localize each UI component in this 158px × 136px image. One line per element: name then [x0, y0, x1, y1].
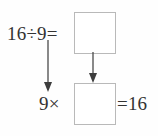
- arrow-quotient-to-factor-icon: [85, 52, 103, 85]
- math-relationship-diagram: 16÷9= 9× =16: [0, 0, 158, 136]
- answer-box-factor[interactable]: [74, 83, 116, 125]
- product-expression: =16: [117, 94, 147, 113]
- multiplier-expression: 9×: [39, 94, 60, 113]
- arrow-division-to-multiplication-icon: [40, 40, 58, 94]
- answer-box-quotient[interactable]: [74, 12, 116, 54]
